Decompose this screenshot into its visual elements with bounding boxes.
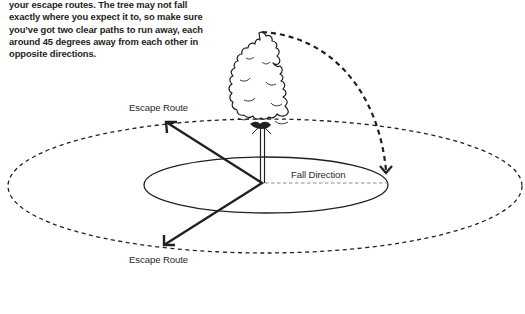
felling-diagram	[0, 0, 525, 314]
escape-route-top-label: Escape Route	[129, 102, 188, 113]
escape-route-bottom-label: Escape Route	[129, 254, 188, 265]
fall-zone-ellipse	[144, 157, 388, 213]
fall-direction-label: Fall Direction	[291, 169, 346, 180]
